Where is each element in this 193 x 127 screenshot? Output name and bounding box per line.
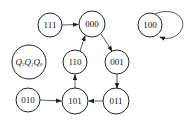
state-111: 111	[38, 13, 62, 37]
state-011: 011	[103, 88, 129, 114]
svg-text:001: 001	[110, 57, 124, 67]
state-101: 101	[62, 88, 88, 114]
svg-text:101: 101	[68, 96, 82, 106]
svg-text:111: 111	[44, 20, 57, 30]
svg-text:110: 110	[68, 57, 82, 67]
svg-text:010: 010	[21, 95, 35, 105]
state-100: 100	[138, 13, 162, 37]
svg-text:011: 011	[109, 96, 122, 106]
legend-label: Q2Q1Q0	[16, 57, 44, 67]
edge-010-101	[40, 100, 61, 101]
svg-text:100: 100	[143, 20, 157, 30]
edge-110-000	[80, 36, 85, 51]
state-000: 000	[79, 11, 105, 37]
edge-111-000	[62, 25, 78, 26]
svg-text:000: 000	[85, 19, 99, 29]
state-010: 010	[16, 88, 40, 112]
state-001: 001	[105, 50, 129, 74]
edge-000-001	[101, 34, 112, 51]
state-diagram: Q2Q1Q0 111 000 100 110 001 010 101 011	[0, 0, 193, 127]
state-110: 110	[63, 50, 87, 74]
legend-node: Q2Q1Q0	[12, 45, 46, 79]
